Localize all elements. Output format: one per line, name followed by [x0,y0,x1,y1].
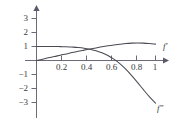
x-tick-label-0.4: 0.4 [74,63,99,72]
y-tick-label-1: 1 [14,42,28,51]
f-prime-label: f′ [163,42,167,51]
x-tick-label-0.2: 0.2 [49,63,74,72]
f-prime-label-mark: ′ [166,41,168,51]
y-tick-label-2: 2 [14,28,28,37]
f-double-prime-label: f″ [157,104,163,113]
y-tick-label-3: 3 [14,14,28,23]
y-axis [33,5,39,118]
x-tick-label-0.6: 0.6 [99,63,124,72]
curve-f-double-prime [37,46,156,103]
x-tick-label-1: 1 [148,63,162,72]
y-tick-label-minus-1: −1 [10,70,28,79]
y-tick-label-minus-2: −2 [10,84,28,93]
f-double-prime-label-mark: ″ [160,103,164,113]
y-tick-label-minus-3: −3 [10,98,28,107]
curve-f-prime [37,43,156,61]
y-axis-arrowhead [33,5,39,11]
x-axis-arrowhead [163,57,169,63]
x-tick-label-0.8: 0.8 [124,63,149,72]
chart-figure: 3 2 1 −1 −2 −3 0.2 0.4 0.6 0.8 1 f′ f″ [0,0,175,125]
